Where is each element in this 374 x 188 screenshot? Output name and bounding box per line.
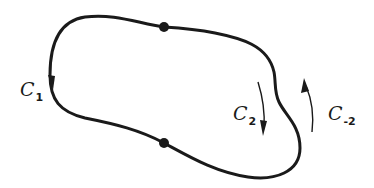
label-c1: C1: [20, 80, 43, 103]
label-c2: C2: [233, 104, 256, 127]
contour-diagram: [0, 0, 374, 188]
c2-arrowhead-icon: [260, 120, 267, 136]
label-c-minus-2: C-2: [328, 104, 356, 127]
c-minus-2-arrow-shaft: [306, 86, 313, 132]
c-minus-2-arrowhead-icon: [301, 78, 309, 93]
top-point-dot: [159, 22, 169, 32]
bottom-point-dot: [159, 138, 169, 148]
